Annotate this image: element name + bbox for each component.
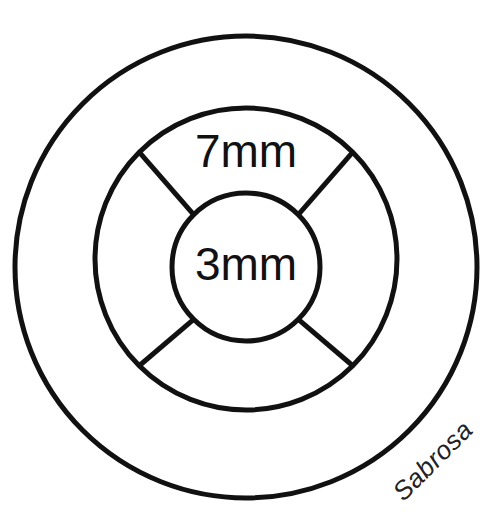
inner-circle-label: 3mm — [195, 238, 297, 290]
outer-ring-label: 7mm — [195, 125, 297, 177]
diagram-canvas: 7mm 3mm Sabrosa — [0, 0, 492, 526]
diagram-svg: 7mm 3mm Sabrosa — [0, 0, 492, 526]
